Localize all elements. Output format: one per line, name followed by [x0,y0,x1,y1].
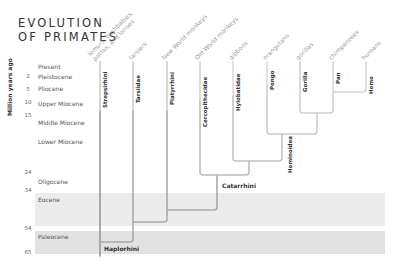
clade-hominoidea: Hominoidea [287,136,293,173]
taxon-homo: Homo [368,76,374,94]
taxon-strepsirhini: Strepsirhini [102,72,108,108]
clade-haplorhini: Haplorhini [104,245,139,252]
phylogenetic-tree [0,0,395,267]
taxon-platyrrhini: Platyrrhini [169,72,175,105]
taxon-pongo: Pongo [269,71,275,90]
taxon-cercopithecidae: Cercopithecidae [202,77,208,127]
taxon-pan: Pan [335,72,341,84]
taxon-hylobatidae: Hylobatidae [235,74,241,111]
clade-catarrhini: Catarrhini [222,182,256,189]
taxon-tarsiidae: Tarsiidae [135,75,141,103]
taxon-gorilla: Gorilla [302,72,308,92]
branch-catarrhini-stem [167,175,217,210]
